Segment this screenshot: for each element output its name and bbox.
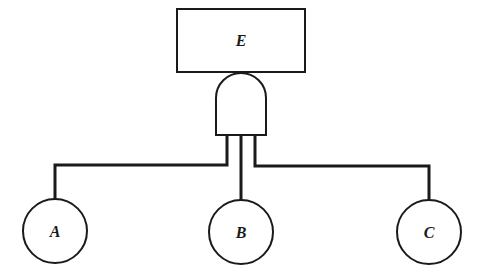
basic-event-b: B xyxy=(209,200,273,264)
top-event-e: E xyxy=(177,9,305,72)
basic-event-b-label: B xyxy=(235,224,247,241)
and-gate-icon xyxy=(216,73,266,135)
and-gate xyxy=(216,73,266,135)
basic-event-c: C xyxy=(397,200,461,264)
basic-event-a: A xyxy=(23,199,87,263)
top-event-label: E xyxy=(235,32,247,49)
basic-event-a-label: A xyxy=(49,223,61,240)
basic-event-c-label: C xyxy=(424,224,435,241)
connector-wires xyxy=(55,135,429,200)
wire-c-to-gate xyxy=(255,135,429,200)
fault-tree-diagram: E A B C xyxy=(0,0,485,275)
wire-a-to-gate xyxy=(55,135,227,199)
